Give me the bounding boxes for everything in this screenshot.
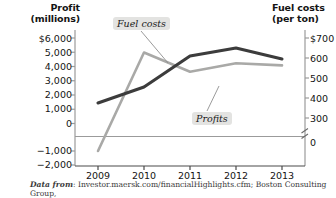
left-tick-label: 5,000 bbox=[8, 47, 72, 58]
right-axis-title-line2: (per ton) bbox=[272, 13, 319, 24]
chart-figure: Profit(millions) Fuel costs(per ton) $6,… bbox=[0, 0, 336, 198]
left-axis-title-line1: Profit bbox=[50, 2, 80, 13]
left-tick-label: 2,000 bbox=[8, 89, 72, 100]
source-note-lead: Data from bbox=[30, 180, 73, 189]
left-tick-label: 0 bbox=[8, 118, 72, 129]
right-tick-label: 400 bbox=[310, 93, 328, 104]
right-axis-title-line1: Fuel costs bbox=[272, 2, 325, 13]
right-axis-title: Fuel costs(per ton) bbox=[272, 3, 334, 24]
left-tick-label: 3,000 bbox=[8, 75, 72, 86]
left-tick-label: 4,000 bbox=[8, 61, 72, 72]
left-axis-title: Profit(millions) bbox=[8, 3, 80, 24]
source-note: Data from: Investor.maersk.com/financial… bbox=[30, 180, 336, 198]
left-tick-label: −2,000 bbox=[8, 159, 72, 170]
right-tick-label: $700 bbox=[310, 33, 334, 44]
left-axis-title-line2: (millions) bbox=[30, 13, 80, 24]
leader-line-profits bbox=[207, 86, 219, 111]
left-tick-label: −1,000 bbox=[8, 145, 72, 156]
series-line-fuel-costs bbox=[98, 48, 282, 103]
right-tick-label: 0 bbox=[310, 137, 316, 148]
series-label-fuel-costs: Fuel costs bbox=[113, 17, 170, 30]
source-note-line1: : Investor.maersk.com/financialHighlight… bbox=[30, 180, 326, 198]
left-tick-label: $6,000 bbox=[8, 33, 72, 44]
series-label-profits: Profits bbox=[192, 112, 232, 125]
right-tick-label: 600 bbox=[310, 53, 328, 64]
left-tick-label: 1,000 bbox=[8, 103, 72, 114]
right-tick-label: 300 bbox=[310, 113, 328, 124]
right-tick-label: 500 bbox=[310, 73, 328, 84]
